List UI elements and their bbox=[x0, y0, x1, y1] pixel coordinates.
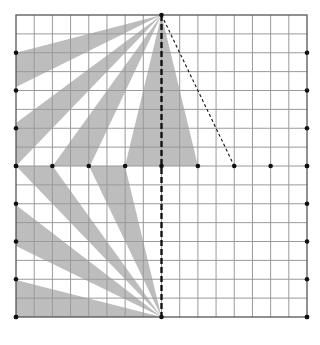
grid-dot bbox=[305, 88, 310, 93]
grid-dot bbox=[50, 164, 55, 169]
grid-dot bbox=[86, 164, 91, 169]
grid-dot bbox=[268, 164, 273, 169]
grid-dot bbox=[305, 50, 310, 55]
wedge-grid-diagram bbox=[0, 0, 320, 345]
grid-dot bbox=[305, 201, 310, 206]
grid-dot bbox=[14, 239, 19, 244]
grid-dot bbox=[159, 13, 164, 18]
grid-dot bbox=[232, 164, 237, 169]
grid-dot bbox=[123, 164, 128, 169]
grid-dot bbox=[14, 315, 19, 320]
grid-dot bbox=[159, 315, 164, 320]
grid-dot bbox=[14, 126, 19, 131]
grid-dot bbox=[14, 164, 19, 169]
grid-dot bbox=[305, 164, 310, 169]
grid-dot bbox=[305, 239, 310, 244]
grid-dot bbox=[305, 315, 310, 320]
grid-dot bbox=[305, 277, 310, 282]
grid-dot bbox=[196, 164, 201, 169]
grid-dot bbox=[14, 277, 19, 282]
grid-dot bbox=[14, 201, 19, 206]
grid-dot bbox=[14, 50, 19, 55]
grid-dot bbox=[159, 164, 164, 169]
grid-dot bbox=[305, 126, 310, 131]
grid-dot bbox=[14, 88, 19, 93]
